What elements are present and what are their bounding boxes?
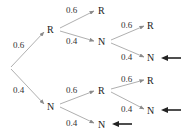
node-N1: N [47,101,54,112]
node-RNN: N [147,52,154,63]
prob-label-R-R: 0.6 [66,5,78,15]
prob-label-NR-R: 0.6 [121,74,133,84]
node-NN: N [98,119,105,130]
prob-label-N-N: 0.4 [66,118,78,128]
pointer-arrow-icon [161,55,181,61]
probability-tree-diagram: 0.6 0.4 0.6 0.4 0.6 0.4 0.6 0.4 0.6 0.4 … [0,0,186,137]
pointer-arrow-icon [161,107,181,113]
node-RNR: R [147,20,154,31]
prob-label-root-N: 0.4 [13,85,25,95]
pointer-arrow-icon [112,121,132,127]
prob-label-NR-N: 0.4 [121,104,133,114]
prob-label-root-R: 0.6 [13,40,25,50]
prob-label-RN-N: 0.4 [121,52,133,62]
node-NRR: R [147,75,154,86]
node-NRN: N [147,105,154,116]
node-RN: N [98,36,105,47]
node-R1: R [47,24,54,35]
node-RR: R [98,5,105,16]
prob-label-RN-R: 0.6 [121,20,133,30]
prob-label-R-N: 0.4 [66,36,78,46]
node-NR: R [98,85,105,96]
prob-label-N-R: 0.6 [66,85,78,95]
